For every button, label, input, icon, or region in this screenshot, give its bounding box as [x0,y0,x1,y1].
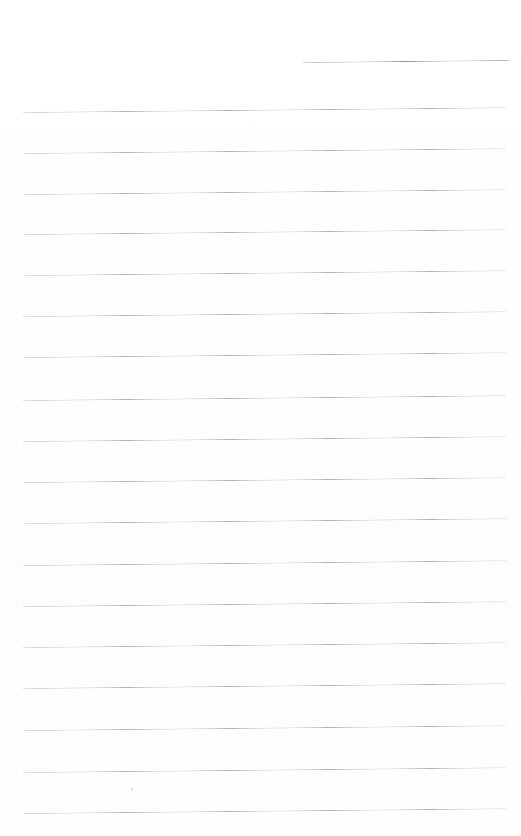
ruled-line [23,436,506,442]
ruled-line [23,352,506,358]
ruled-line [23,311,506,317]
ruled-line [23,189,506,195]
ruled-line [23,395,506,401]
ruled-line [23,767,506,773]
title-rule [303,60,509,63]
paper-surface [0,0,521,836]
ruled-line [23,229,506,235]
ruled-line [23,642,506,648]
ruled-line [23,518,506,524]
ruled-line [23,477,506,483]
scan-edge-shading [0,0,521,836]
ruled-line [23,725,506,731]
ruled-line [23,148,506,154]
scan-speck [131,788,133,791]
ruled-line [23,560,506,566]
ruled-line [23,270,506,276]
ruled-line [23,107,506,113]
ruled-line [23,601,506,607]
scanned-page [0,0,521,836]
ruled-line [23,808,506,814]
ruled-line [23,683,506,689]
